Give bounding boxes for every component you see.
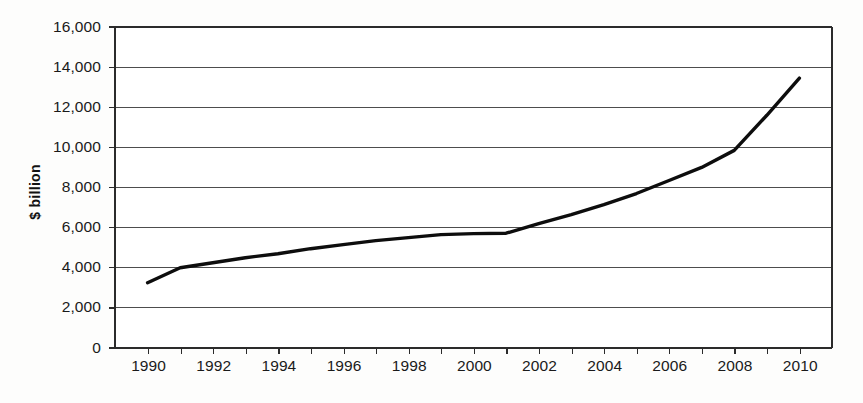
xtick-label-1990: 1990 xyxy=(131,357,166,374)
ytick-label-8000: 8,000 xyxy=(62,178,102,195)
xtick-label-2000: 2000 xyxy=(457,357,492,374)
ytick-label-12000: 12,000 xyxy=(53,98,101,115)
ytick-label-14000: 14,000 xyxy=(53,58,101,75)
xtick-label-1996: 1996 xyxy=(327,357,362,374)
xtick-label-2010: 2010 xyxy=(783,357,818,374)
ytick-label-10000: 10,000 xyxy=(53,138,101,155)
line-chart-figure: 16,000 14,000 12,000 10,000 8,000 6,000 … xyxy=(0,0,863,403)
ytick-label-6000: 6,000 xyxy=(62,218,102,235)
chart-page: 16,000 14,000 12,000 10,000 8,000 6,000 … xyxy=(0,0,863,403)
xtick-label-2008: 2008 xyxy=(718,357,753,374)
xtick-label-2002: 2002 xyxy=(522,357,557,374)
xtick-label-1998: 1998 xyxy=(392,357,427,374)
x-tickmarks xyxy=(149,348,801,354)
xtick-label-1992: 1992 xyxy=(196,357,231,374)
ytick-label-0: 0 xyxy=(92,339,101,356)
y-axis-title: $ billion xyxy=(27,164,43,220)
ytick-label-16000: 16,000 xyxy=(53,18,101,35)
xtick-label-1994: 1994 xyxy=(261,357,296,374)
ytick-label-4000: 4,000 xyxy=(62,258,102,275)
chart-svg: 16,000 14,000 12,000 10,000 8,000 6,000 … xyxy=(0,0,863,403)
xtick-label-2006: 2006 xyxy=(652,357,687,374)
ytick-label-2000: 2,000 xyxy=(62,298,102,315)
xtick-label-2004: 2004 xyxy=(587,357,622,374)
y-axis-title-group: $ billion xyxy=(27,164,43,220)
